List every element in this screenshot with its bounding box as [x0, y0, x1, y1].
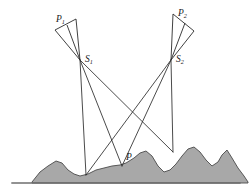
projection-ray	[122, 60, 171, 166]
label-camera-right-sub: 2	[184, 12, 187, 19]
projection-ray	[80, 60, 86, 175]
label-camera-left: P1	[55, 14, 65, 25]
projection-ray	[171, 60, 173, 152]
label-station-left: S1	[85, 54, 93, 65]
label-ground-point-base: P	[125, 152, 132, 162]
label-station-right: S2	[176, 54, 184, 65]
label-ground-point: P	[125, 152, 132, 162]
label-camera-left-sub: 1	[62, 18, 65, 25]
label-camera-right: P2	[177, 8, 187, 19]
camera-left-frustum	[55, 19, 80, 60]
frustum-edge	[55, 30, 80, 60]
figure-root: P1 P2 S1 S2 P	[0, 0, 252, 196]
projection-ray	[80, 60, 173, 152]
frustum-edge	[171, 31, 194, 60]
label-station-left-sub: 1	[90, 58, 93, 65]
label-station-right-sub: 2	[181, 58, 184, 65]
terrain-profile	[32, 147, 248, 183]
frustum-edge	[171, 14, 173, 60]
projection-ray	[80, 60, 122, 166]
stereo-geometry-diagram: P1 P2 S1 S2 P	[0, 0, 252, 196]
camera-right-frustum	[171, 14, 194, 60]
